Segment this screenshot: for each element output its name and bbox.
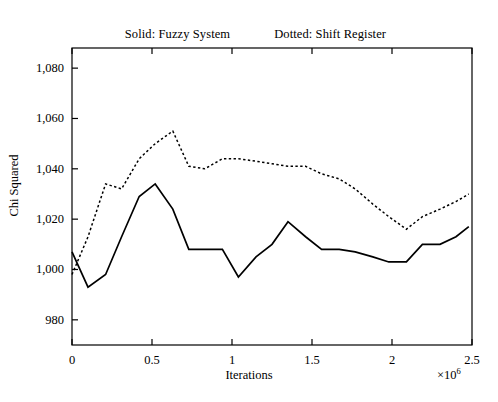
- plot-frame-border: [72, 48, 472, 345]
- plot-area: [0, 0, 498, 402]
- y-tick-marks: [72, 68, 78, 320]
- x-tick-marks: [72, 48, 472, 345]
- series-line-fuzzy-system: [72, 184, 469, 287]
- series-line-shift-register: [72, 131, 469, 274]
- chi-squared-line-chart: Solid: Fuzzy SystemDotted: Shift Registe…: [0, 0, 498, 402]
